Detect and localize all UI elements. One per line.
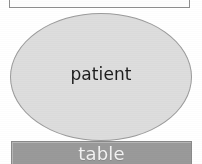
diagram-node-patient[interactable]: patient	[10, 13, 192, 141]
table-node-label: table	[78, 145, 125, 163]
diagram-node-top-clipped[interactable]	[9, 0, 190, 8]
diagram-node-table[interactable]: table	[11, 141, 192, 164]
patient-node-label: patient	[70, 66, 131, 83]
diagram-canvas: patient table	[0, 0, 202, 164]
